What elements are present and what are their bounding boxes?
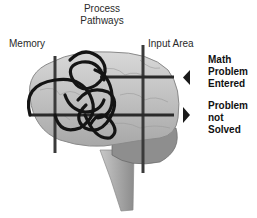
notsolved-line2: not [208, 112, 248, 124]
memory-label: Memory [9, 38, 45, 50]
math-line3: Entered [208, 78, 248, 90]
notsolved-line1: Problem [208, 100, 248, 112]
math-problem-entered-label: Math Problem Entered [208, 54, 248, 90]
input-area-label: Input Area [148, 38, 194, 50]
process-line1: Process [72, 3, 132, 15]
notsolved-line3: Solved [208, 124, 248, 136]
process-pathways-label: Process Pathways [72, 3, 132, 27]
problem-not-solved-label: Problem not Solved [208, 100, 248, 136]
math-line2: Problem [208, 66, 248, 78]
process-line2: Pathways [72, 15, 132, 27]
math-line1: Math [208, 54, 248, 66]
arrow-left-icon [183, 70, 190, 85]
arrow-right-icon [183, 107, 190, 123]
